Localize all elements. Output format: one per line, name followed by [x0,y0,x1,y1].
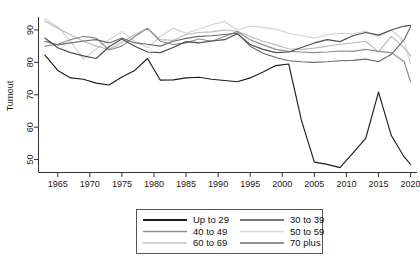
legend-label-up-to-29: Up to 29 [193,214,229,225]
chart-legend: Up to 2930 to 3940 to 4950 to 5960 to 69… [137,210,325,254]
legend-label-50-to-59: 50 to 59 [290,226,324,237]
x-tick-label-2015: 2015 [368,179,388,189]
x-tick-label-1965: 1965 [48,179,68,189]
x-tick-label-2010: 2010 [336,179,356,189]
legend-label-70-plus: 70 plus [290,237,321,248]
legend-label-30-to-39: 30 to 39 [290,214,324,225]
y-axis-label: Turnout [5,80,15,111]
y-tick-label-80: 80 [25,57,35,67]
x-tick-label-2020: 2020 [401,179,420,189]
y-tick-label-90: 90 [25,25,35,35]
legend-label-60-to-69: 60 to 69 [193,237,227,248]
turnout-line-chart: Turnout 5060708090 196519701975198019851… [0,0,420,262]
x-tick-label-1980: 1980 [144,179,164,189]
y-axis-label-group: Turnout [5,80,15,111]
series-line-70-plus [45,27,411,63]
x-tick-label-1975: 1975 [112,179,132,189]
y-tick-label-70: 70 [25,90,35,100]
x-tick-label-1970: 1970 [80,179,100,189]
legend-label-40-to-49: 40 to 49 [193,226,227,237]
y-axis-ticks: 5060708090 [25,25,39,165]
data-series-group [45,19,411,168]
x-tick-label-2000: 2000 [272,179,292,189]
y-tick-label-50: 50 [25,155,35,165]
x-tick-label-2005: 2005 [304,179,324,189]
x-tick-label-1990: 1990 [208,179,228,189]
x-axis-ticks: 1965197019751980198519901995200020052010… [48,173,420,190]
series-line-up-to-29 [45,55,411,167]
chart-canvas: Turnout 5060708090 196519701975198019851… [0,0,420,262]
x-tick-label-1995: 1995 [240,179,260,189]
y-tick-label-60: 60 [25,122,35,132]
x-tick-label-1985: 1985 [176,179,196,189]
